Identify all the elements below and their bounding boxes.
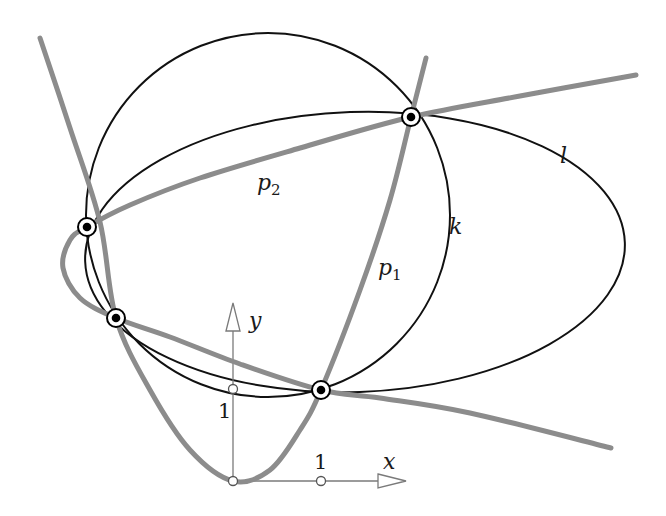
- label-p2: p2: [257, 170, 281, 199]
- x-axis-arrowhead-icon: [378, 474, 406, 488]
- intersection-point: [107, 309, 125, 327]
- y-tick-label: 1: [218, 399, 231, 423]
- label-y-axis: y: [248, 308, 262, 333]
- intersection-point: [312, 381, 330, 399]
- unit-marker: [229, 385, 238, 394]
- ellipse-l: [80, 103, 629, 402]
- y-axis-arrowhead-icon: [226, 303, 240, 331]
- label-p1: p1: [378, 255, 402, 284]
- x-tick-label: 1: [314, 450, 327, 474]
- origin-marker: [229, 477, 238, 486]
- label-l: l: [560, 143, 567, 168]
- label-x-axis: x: [383, 449, 396, 474]
- unit-marker: [317, 477, 326, 486]
- unit-markers: [229, 385, 326, 486]
- intersection-point: [78, 218, 96, 236]
- parabolas-layer: [40, 38, 636, 482]
- conic-intersection-figure: p1 p2 k l x y 1 1: [0, 0, 666, 516]
- conics-layer: [80, 33, 629, 401]
- label-k: k: [449, 214, 462, 239]
- diagram-canvas: p1 p2 k l x y 1 1: [0, 0, 666, 516]
- intersection-point: [402, 108, 420, 126]
